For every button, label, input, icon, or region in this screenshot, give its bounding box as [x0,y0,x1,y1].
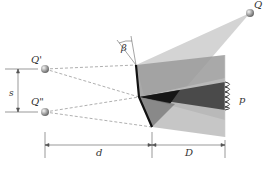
fresnel-mirror-diagram: β p Q Q' Q" s d D [0,0,264,170]
source-q [246,9,254,17]
virtual-source-2 [41,108,49,116]
virtual-source-1-label: Q' [31,54,42,65]
virtual-source-1 [41,65,49,73]
virtual-source-2-label: Q" [31,96,44,107]
angle-label: β [120,42,127,53]
mirror-normal-line [131,36,136,65]
separation-label: s [9,88,14,98]
source-q-label: Q [254,0,262,10]
fringes-label: p [239,94,246,105]
distance-dimensions [45,132,225,158]
source-distance-label: d [96,147,102,158]
screen-distance-label: D [184,147,193,158]
fringe-pattern [225,82,230,110]
